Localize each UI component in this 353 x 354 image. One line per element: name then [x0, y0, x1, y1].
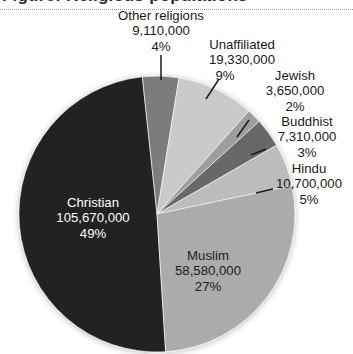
slice-label-muslim-value: 58,580,000: [143, 263, 273, 278]
slice-label-christian-percent: 49%: [28, 226, 158, 241]
slice-label-muslim-name: Muslim: [143, 248, 273, 263]
slice-label-unaffiliated-value: 19,330,000: [187, 52, 297, 67]
slice-label-hindu: Hindu 10,700,000 5%: [266, 161, 352, 207]
slice-label-hindu-name: Hindu: [266, 161, 352, 176]
slice-label-jewish: Jewish 3,650,000 2%: [245, 68, 345, 114]
slice-label-jewish-percent: 2%: [245, 99, 345, 114]
slice-label-christian-name: Christian: [28, 195, 158, 210]
slice-label-christian-value: 105,670,000: [28, 210, 158, 225]
slice-label-buddhist-name: Buddhist: [264, 114, 350, 129]
slice-label-muslim-percent: 27%: [143, 279, 273, 294]
slice-label-jewish-name: Jewish: [245, 68, 345, 83]
slice-label-buddhist-value: 7,310,000: [264, 129, 350, 144]
slice-label-other-religions-name: Other religions: [98, 8, 224, 23]
slice-label-buddhist-percent: 3%: [264, 145, 350, 160]
slice-label-jewish-value: 3,650,000: [245, 83, 345, 98]
slice-label-christian: Christian 105,670,000 49%: [28, 195, 158, 241]
slice-label-hindu-value: 10,700,000: [266, 176, 352, 191]
slice-label-buddhist: Buddhist 7,310,000 3%: [264, 114, 350, 160]
slice-label-muslim: Muslim 58,580,000 27%: [143, 248, 273, 294]
slice-label-hindu-percent: 5%: [266, 192, 352, 207]
pie-chart-figure: Figure: Religious populations: [0, 0, 353, 354]
slice-label-unaffiliated-name: Unaffiliated: [187, 37, 297, 52]
